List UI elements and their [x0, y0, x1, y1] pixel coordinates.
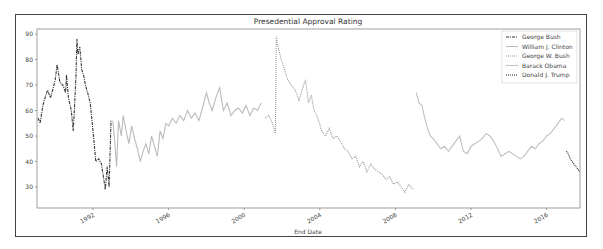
- x-tick-label: 2008: [381, 211, 398, 225]
- x-tick-label: 2000: [230, 211, 247, 225]
- x-tick-label: 1996: [154, 211, 171, 225]
- series-line-george-bush: [38, 39, 111, 190]
- legend-entry: George W. Bush: [522, 52, 570, 60]
- x-axis: 1992199620002004200820122016: [79, 208, 549, 225]
- x-tick-label: 2004: [306, 211, 323, 225]
- x-tick-label: 2012: [457, 211, 474, 225]
- chart-title: Presedential Approval Rating: [254, 17, 363, 26]
- x-tick-label: 1992: [79, 211, 96, 225]
- legend-entry: Donald J. Trump: [522, 71, 570, 79]
- series-line-george-w-bush: [265, 37, 413, 193]
- series-line-william-j-clinton: [113, 88, 261, 167]
- x-axis-label: End Date: [294, 228, 322, 235]
- y-tick-label: 40: [25, 158, 33, 165]
- legend: George BushWilliam J. ClintonGeorge W. B…: [502, 31, 577, 83]
- y-axis: 30405060708090: [25, 30, 37, 190]
- series-line-donald-j-trump: [566, 151, 579, 171]
- series-group: [38, 37, 580, 193]
- plot-area: [37, 29, 580, 208]
- y-tick-label: 90: [25, 30, 33, 37]
- legend-entry: George Bush: [522, 33, 561, 41]
- legend-entry: Barack Obama: [522, 62, 567, 69]
- legend-entry: William J. Clinton: [522, 43, 573, 51]
- y-tick-label: 70: [25, 81, 33, 88]
- series-line-barack-obama: [416, 93, 564, 159]
- line-chart: Presedential Approval Rating 30405060708…: [0, 0, 603, 249]
- y-tick-label: 80: [25, 56, 33, 63]
- y-tick-label: 60: [25, 107, 33, 114]
- x-tick-label: 2016: [532, 211, 549, 225]
- y-tick-label: 30: [25, 183, 33, 190]
- y-tick-label: 50: [25, 132, 33, 139]
